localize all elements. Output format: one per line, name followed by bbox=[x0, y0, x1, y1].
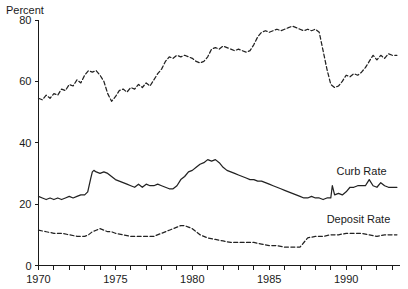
x-tick-label: 1990 bbox=[334, 273, 358, 285]
y-tick-label: 20 bbox=[19, 198, 31, 210]
y-axis-tick-labels: 020406080 bbox=[19, 14, 31, 272]
x-tick-label: 1975 bbox=[103, 273, 127, 285]
series-label-deposit-rate: Deposit Rate bbox=[327, 213, 391, 225]
chart-container: Percent 020406080 19701975198019851990 C… bbox=[0, 0, 408, 289]
y-tick-label: 0 bbox=[25, 260, 31, 272]
series-line-deposit-rate bbox=[39, 226, 397, 247]
y-axis-tick-marks bbox=[35, 20, 39, 266]
x-tick-label: 1985 bbox=[257, 273, 281, 285]
x-tick-label: 1980 bbox=[180, 273, 204, 285]
series-label-curb-rate: Curb Rate bbox=[336, 165, 386, 177]
series-line-loan-rate bbox=[39, 26, 397, 101]
x-axis-tick-marks bbox=[39, 266, 393, 271]
y-tick-label: 60 bbox=[19, 75, 31, 87]
y-tick-label: 40 bbox=[19, 137, 31, 149]
x-axis-tick-labels: 19701975198019851990 bbox=[26, 273, 358, 285]
line-chart: Percent 020406080 19701975198019851990 C… bbox=[0, 0, 408, 289]
y-tick-label: 80 bbox=[19, 14, 31, 26]
x-tick-label: 1970 bbox=[26, 273, 50, 285]
